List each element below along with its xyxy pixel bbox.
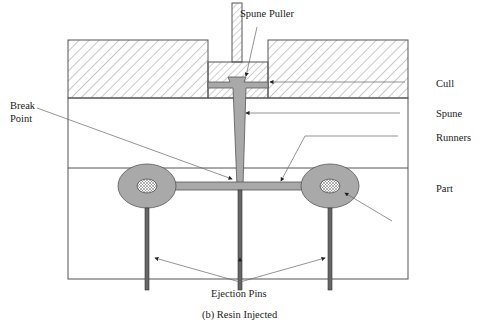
left-part-insert	[137, 179, 157, 193]
right-top-plate	[268, 40, 408, 98]
label-part: Part	[436, 183, 453, 194]
ejection-pin-left	[145, 208, 149, 290]
figure-caption: (b) Resin Injected	[202, 309, 278, 321]
label-runners: Runners	[436, 132, 471, 143]
label-break-point-1: Break	[10, 100, 36, 111]
runner	[165, 182, 313, 190]
label-spune: Spune	[436, 108, 463, 119]
label-spune-puller: Spune Puller	[240, 8, 294, 19]
left-top-plate	[68, 40, 208, 98]
label-ejection-pins: Ejection Pins	[211, 288, 267, 299]
mold-diagram: Spune Puller Cull Spune Runners Part Bre…	[0, 0, 480, 325]
ejection-pin-right	[328, 208, 332, 290]
right-part-insert	[320, 179, 340, 193]
label-break-point-2: Point	[10, 113, 32, 124]
label-cull: Cull	[436, 78, 454, 89]
